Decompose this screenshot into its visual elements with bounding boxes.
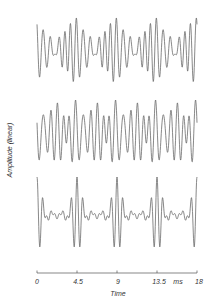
x-tick-label-3: 13.5 — [152, 278, 166, 285]
y-axis-title: Amplitude (linear) — [6, 123, 14, 179]
x-tick-label-1: 4.5 — [73, 278, 83, 285]
x-tick-label-2: 9 — [116, 278, 120, 285]
waveform-top — [37, 18, 197, 82]
plot-area — [37, 18, 197, 247]
x-tick-label-0: 0 — [35, 278, 39, 285]
waveform-bottom — [37, 177, 197, 247]
waveform-figure: Amplitude (linear) 0 4.5 9 13.5 ms 18 Ti… — [0, 0, 214, 306]
waveform-middle — [37, 100, 197, 162]
x-axis-title: Time — [110, 290, 126, 297]
x-unit-label: ms — [173, 278, 183, 285]
x-axis: 0 4.5 9 13.5 ms 18 Time — [35, 271, 203, 298]
x-tick-label-4: 18 — [195, 278, 203, 285]
